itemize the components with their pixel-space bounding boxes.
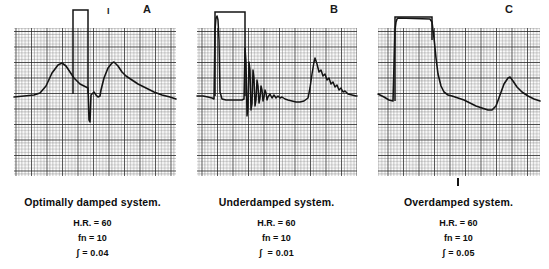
tick-mark-c — [457, 178, 459, 186]
panel-optimally-damped: A I Optimally damped system. H.R. = 60 f… — [0, 0, 185, 269]
param-zeta-c: ʃ = 0.05 — [368, 246, 549, 261]
param-hr-b: H.R. = 60 — [185, 216, 368, 231]
caption-b: Underdamped system. — [185, 196, 368, 208]
panel-overdamped: C Overdamped system. H.R. = 60 fn = 10 ʃ… — [368, 0, 549, 269]
param-zeta-a: ʃ = 0.04 — [0, 246, 185, 261]
waveform-plot-c — [368, 0, 549, 190]
grid-b — [197, 28, 357, 176]
grid-c — [378, 28, 540, 176]
waveform-plot-a — [0, 0, 185, 190]
param-hr-c: H.R. = 60 — [368, 216, 549, 231]
tick-mark-label-a: I — [107, 7, 110, 16]
grid-a — [14, 28, 176, 176]
param-fn-b: fn = 10 — [185, 231, 368, 246]
figure-container: A I Optimally damped system. H.R. = 60 f… — [0, 0, 549, 269]
panel-letter-c: C — [505, 4, 513, 15]
panel-letter-b: B — [330, 4, 338, 15]
params-a: H.R. = 60 fn = 10 ʃ = 0.04 — [0, 216, 185, 261]
panel-underdamped: B Underdamped system. H.R. = 60 fn = 10 … — [185, 0, 368, 269]
param-fn-a: fn = 10 — [0, 231, 185, 246]
param-hr-a: H.R. = 60 — [0, 216, 185, 231]
param-fn-c: fn = 10 — [368, 231, 549, 246]
params-b: H.R. = 60 fn = 10 ʃ = 0.01 — [185, 216, 368, 261]
params-c: H.R. = 60 fn = 10 ʃ = 0.05 — [368, 216, 549, 261]
waveform-plot-b — [185, 0, 368, 190]
caption-c: Overdamped system. — [368, 196, 549, 208]
caption-a: Optimally damped system. — [0, 196, 185, 208]
panel-letter-a: A — [143, 4, 151, 15]
param-zeta-b: ʃ = 0.01 — [185, 246, 368, 261]
